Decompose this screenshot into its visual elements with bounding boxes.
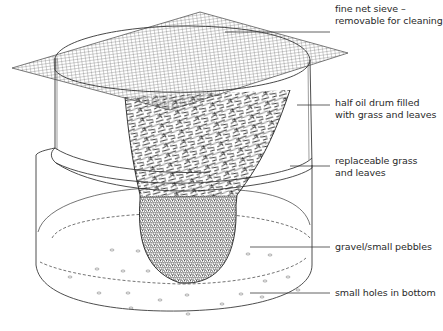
label-drum: half oil drum filled with grass and leav… (335, 97, 436, 121)
label-grass: replaceable grass and leaves (335, 155, 417, 179)
fine-net-sieve (12, 12, 348, 110)
label-sieve-line1: fine net sieve – (335, 3, 443, 15)
label-holes-line1: small holes in bottom (335, 287, 436, 299)
label-sieve-line2: removable for cleaning (335, 15, 443, 27)
label-holes: small holes in bottom (335, 287, 436, 299)
label-sieve: fine net sieve – removable for cleaning (335, 3, 443, 27)
label-grass-line2: and leaves (335, 167, 417, 179)
label-drum-line1: half oil drum filled (335, 97, 436, 109)
label-drum-line2: with grass and leaves (335, 109, 436, 121)
label-gravel: gravel/small pebbles (335, 241, 432, 253)
filter-media (110, 85, 300, 296)
label-grass-line1: replaceable grass (335, 155, 417, 167)
label-gravel-line1: gravel/small pebbles (335, 241, 432, 253)
